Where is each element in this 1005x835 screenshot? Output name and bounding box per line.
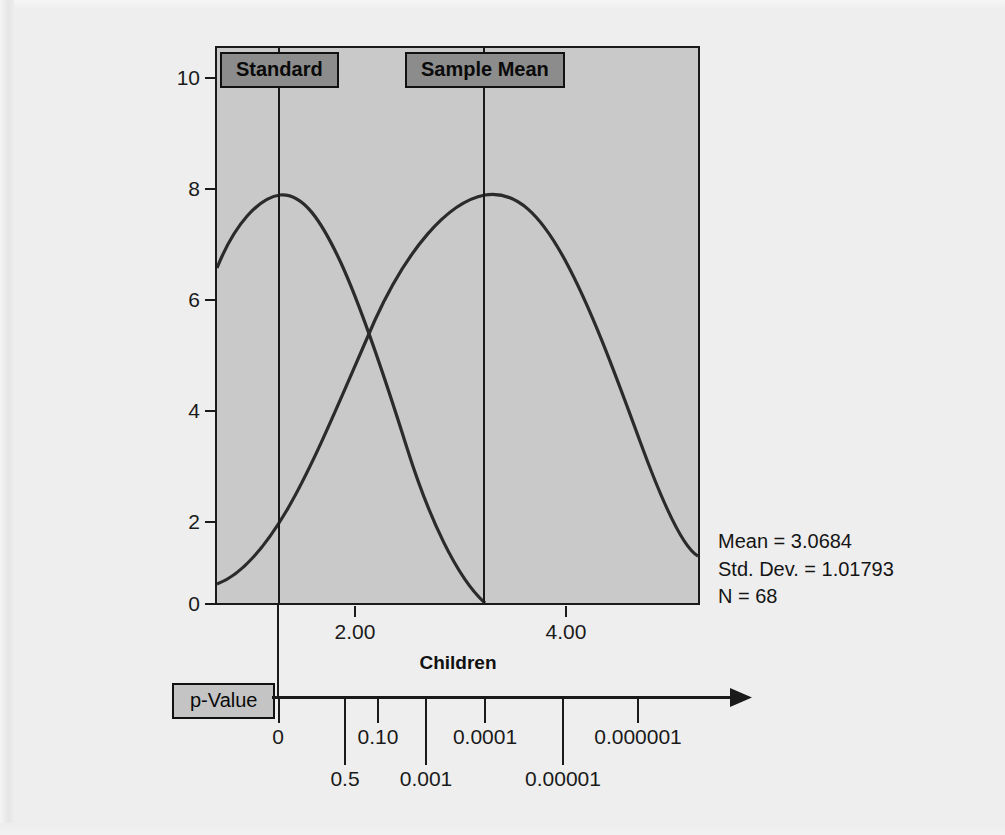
marker-line-standard-extension <box>277 605 279 699</box>
pvalue-tick-0-0001 <box>484 697 486 723</box>
pvalue-tick-0-000001 <box>637 697 639 723</box>
marker-line-standard <box>278 48 280 603</box>
marker-line-sample-mean <box>483 48 485 603</box>
curve-sample-mean <box>217 194 698 584</box>
x-tick-label-2: 2.00 <box>310 620 400 644</box>
y-tick-label-6: 6 <box>160 288 200 312</box>
callout-standard: Standard <box>220 52 339 88</box>
pvalue-tick-0-00001 <box>562 697 564 765</box>
y-tick-label-2: 2 <box>160 510 200 534</box>
y-tick-label-8: 8 <box>160 177 200 201</box>
scan-edge-top <box>0 0 1005 10</box>
x-tick-mark-4 <box>565 606 567 617</box>
pvalue-axis-line <box>278 696 738 699</box>
scan-edge-bottom <box>0 823 1005 835</box>
figure-canvas: Frequency 10 8 6 4 2 0 Standard Sample M… <box>0 0 1005 835</box>
pvalue-label-0-000001: 0.000001 <box>568 725 708 749</box>
x-axis-title: Children <box>358 652 558 674</box>
curve-standard <box>217 195 485 603</box>
stat-mean: Mean = 3.0684 <box>718 528 894 556</box>
pvalue-axis-arrowhead <box>730 685 760 711</box>
y-tick-label-10: 10 <box>160 66 200 90</box>
distribution-curves <box>217 48 698 603</box>
pvalue-label-0-0001: 0.0001 <box>415 725 555 749</box>
scan-edge-left <box>0 0 14 835</box>
y-tick-label-0: 0 <box>160 592 200 616</box>
x-tick-mark-2 <box>354 606 356 617</box>
pvalue-tick-0-10 <box>377 697 379 723</box>
statistics-block: Mean = 3.0684 Std. Dev. = 1.01793 N = 68 <box>718 528 894 611</box>
pvalue-box: p-Value <box>172 683 275 719</box>
pvalue-label-0-00001: 0.00001 <box>493 767 633 791</box>
pvalue-label-0-001: 0.001 <box>356 767 496 791</box>
plot-area <box>215 46 700 605</box>
stat-n: N = 68 <box>718 583 894 611</box>
y-tick-label-4: 4 <box>160 399 200 423</box>
callout-sample-mean: Sample Mean <box>405 52 565 88</box>
x-tick-label-4: 4.00 <box>521 620 611 644</box>
pvalue-tick-0 <box>278 697 280 723</box>
stat-std-dev: Std. Dev. = 1.01793 <box>718 556 894 584</box>
